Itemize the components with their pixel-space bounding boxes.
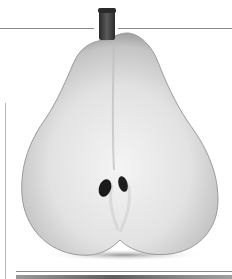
photo-frame [0, 0, 232, 279]
core-line [113, 42, 114, 170]
pear-illustration [0, 0, 232, 279]
stem-tip [98, 8, 116, 13]
pear-half [22, 33, 218, 255]
